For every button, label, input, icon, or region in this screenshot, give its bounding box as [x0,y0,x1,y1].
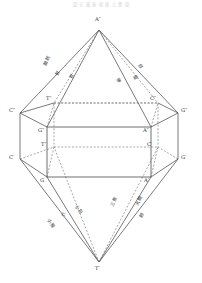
vertex-label-top-back-right: C″ [150,96,156,101]
vertex-label-bottom-front-right: A′ [144,178,149,183]
vertex-label-top-front-left: G″ [38,128,44,133]
vertex-label-bottom-front-left: G [40,178,44,183]
vertex-label-bottom-back-left: T″ [41,142,46,147]
vertex-label-bottom-back-right: C′ [147,142,152,147]
prism-connecting-depth-edges [47,103,158,177]
vertex-label-top-back-left: T″ [46,96,51,101]
vertex-label-upper-left-outer: C″ [9,108,15,113]
bottom-pyramid-hidden-edges [54,147,158,262]
figure-canvas: 圖 五 臟 腑 經 絡 立 體 圖 [0,0,202,283]
prism-front-face [47,127,151,177]
prism-back-face-hidden [54,103,158,147]
vertex-label-apex-bottom: T′ [95,266,100,271]
vertex-label-lower-right-outer: G′ [181,155,186,160]
outer-hexagon-left-right-edges [20,113,178,159]
vertex-label-top-front-right: A″ [143,128,149,133]
vertex-label-apex-top: A″ [95,17,101,22]
vertex-label-upper-right-outer: G″ [181,108,187,113]
top-pyramid-solid-edges [20,30,178,127]
solid-diagram-svg [0,0,202,283]
vertex-label-lower-left-outer: C′ [9,155,14,160]
